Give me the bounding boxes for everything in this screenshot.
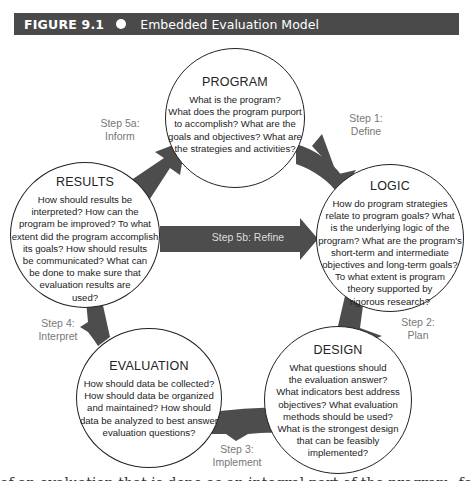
node-design-body: What questions should the evaluation ans… [276,362,400,460]
node-program: PROGRAM What is the program? What does t… [165,48,305,188]
node-evaluation-body: How should data be collected? How should… [80,378,218,439]
step1-label: Step 1: Define [336,112,396,138]
node-design: DESIGN What questions should the evaluat… [264,326,412,474]
step4-label: Step 4: Interpret [30,317,86,343]
node-logic-title: LOGIC [370,179,410,193]
cut-off-body-text: of an evaluation that is done as an inte… [0,474,471,481]
node-logic: LOGIC How do program strategies relate t… [316,164,464,312]
step3-label: Step 3: Implement [202,443,272,469]
node-design-title: DESIGN [313,343,362,357]
step5b-label: Step 5b: Refine [188,231,308,243]
node-program-title: PROGRAM [202,75,268,89]
node-evaluation: EVALUATION How should data be collected?… [76,328,222,468]
node-evaluation-title: EVALUATION [109,359,188,373]
node-logic-body: How do program strategies relate to prog… [318,198,462,308]
step2-label: Step 2: Plan [388,316,448,342]
node-program-body: What is the program? What does the progr… [168,94,302,155]
node-results: RESULTS How should results be interprete… [10,162,160,308]
node-results-body: How should results be interpreted? How c… [12,194,159,304]
node-results-title: RESULTS [56,175,114,189]
step5a-label: Step 5a: Inform [90,117,150,143]
